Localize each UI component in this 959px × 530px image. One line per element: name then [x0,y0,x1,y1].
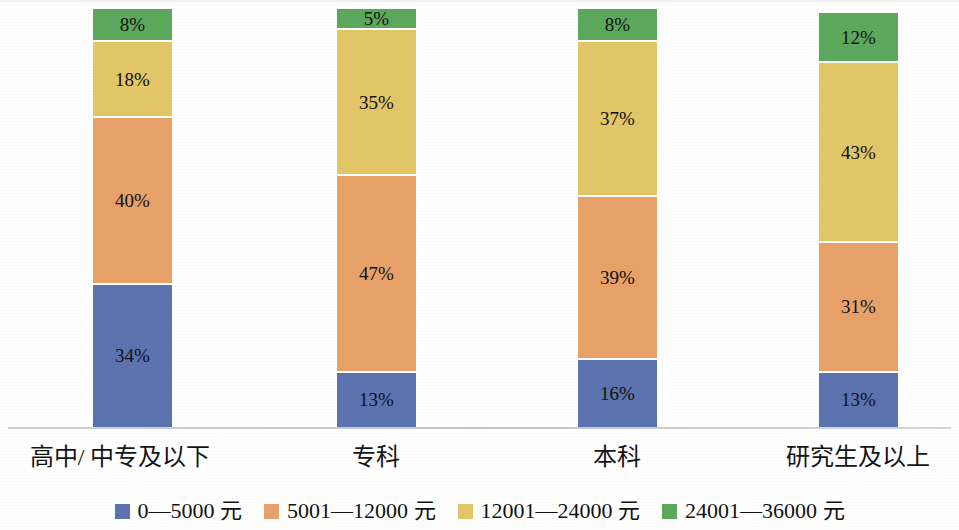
bar-segment-value-label: 34% [115,346,150,365]
legend-label: 24001—36000 元 [685,500,845,522]
bar-segment[interactable]: 43% [819,63,898,243]
bar-segment[interactable]: 35% [337,30,416,176]
legend-color-swatch-icon [264,504,279,519]
legend-color-swatch-icon [115,504,130,519]
bar-segment-value-label: 18% [115,70,150,89]
bar-group[interactable]: 13%31%43%12% [819,9,898,427]
legend-item[interactable]: 24001—36000 元 [662,500,845,522]
bar-segment-value-label: 13% [359,390,394,409]
bar-segment[interactable]: 16% [578,360,657,427]
bar-segment-value-label: 37% [600,109,635,128]
legend-label: 12001—24000 元 [481,500,641,522]
x-axis-baseline [8,427,951,429]
bar-segment-value-label: 40% [115,191,150,210]
legend-item[interactable]: 0—5000 元 [115,500,243,522]
bar-segment-value-label: 43% [841,143,876,162]
legend-item[interactable]: 12001—24000 元 [458,500,641,522]
category-label: 专科 [352,436,400,478]
bar-segment[interactable]: 40% [93,118,172,285]
category-label: 本科 [593,436,641,478]
category-label: 高中/ 中专及以下 [30,436,211,478]
bar-segment-value-label: 16% [600,384,635,403]
bar-group[interactable]: 34%40%18%8% [93,9,172,427]
bar-segment-value-label: 39% [600,268,635,287]
bar-segment[interactable]: 31% [819,243,898,373]
bar-segment[interactable]: 12% [819,13,898,63]
chart-legend: 0—5000 元5001—12000 元12001—24000 元24001—3… [0,492,959,530]
bar-segment[interactable]: 13% [337,373,416,427]
bar-segment-value-label: 13% [841,390,876,409]
bar-segment[interactable]: 39% [578,197,657,360]
bar-segment-value-label: 31% [841,297,876,316]
bar-segment-value-label: 35% [359,93,394,112]
bar-segment-value-label: 8% [605,15,630,34]
bar-segment[interactable]: 37% [578,42,657,197]
bar-segment[interactable]: 5% [337,9,416,30]
stacked-bar-chart: 34%40%18%8%13%47%35%5%16%39%37%8%13%31%4… [0,0,959,530]
legend-color-swatch-icon [458,504,473,519]
bar-segment-value-label: 5% [364,9,389,28]
category-label: 研究生及以上 [786,436,930,478]
bar-segment[interactable]: 8% [578,9,657,42]
bar-segment[interactable]: 34% [93,285,172,427]
bar-segment-value-label: 8% [120,15,145,34]
legend-item[interactable]: 5001—12000 元 [264,500,436,522]
bar-segment-value-label: 47% [359,264,394,283]
bar-segment[interactable]: 47% [337,176,416,372]
legend-color-swatch-icon [662,504,677,519]
bar-segment-value-label: 12% [841,28,876,47]
bar-segment[interactable]: 18% [93,42,172,117]
plot-area: 34%40%18%8%13%47%35%5%16%39%37%8%13%31%4… [0,0,959,428]
bar-group[interactable]: 16%39%37%8% [578,9,657,427]
legend-label: 5001—12000 元 [287,500,436,522]
bar-segment[interactable]: 8% [93,9,172,42]
bar-group[interactable]: 13%47%35%5% [337,9,416,427]
bar-segment[interactable]: 13% [819,373,898,427]
legend-label: 0—5000 元 [138,500,243,522]
category-axis-labels: 高中/ 中专及以下专科本科研究生及以上 [0,436,959,478]
